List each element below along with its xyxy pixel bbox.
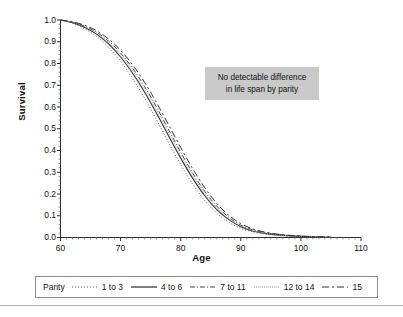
legend-label: 12 to 14 [284,282,315,292]
annotation-callout: No detectable difference in life span by… [205,67,319,100]
y-tick-label: 0.6 [30,102,56,112]
x-tick-label: 100 [286,243,316,253]
legend-entry-1-to-3[interactable]: 1 to 3 [72,282,123,292]
survival-chart-figure: Survival Age 0.00.10.20.30.40.50.60.70.8… [0,0,403,317]
y-tick-label: 0.8 [30,58,56,68]
footer-divider [0,305,403,306]
survival-curve-4-to-6 [61,20,331,237]
annotation-line-1: No detectable difference [218,72,307,83]
y-tick-label: 0.3 [30,167,56,177]
axis-lines [60,20,361,238]
survival-curve-15 [61,20,331,237]
y-tick-label: 0.0 [30,232,56,242]
survival-curve-1-to-3 [61,20,331,237]
legend-label: 1 to 3 [102,282,123,292]
x-tick-label: 60 [46,243,76,253]
y-tick-label: 0.1 [30,210,56,220]
legend-line-sample-icon [131,283,157,291]
y-axis-ticks [57,20,61,238]
survival-curve-12-to-14 [61,20,331,237]
y-tick-label: 0.9 [30,36,56,46]
legend-entry-4-to-6[interactable]: 4 to 6 [131,282,182,292]
legend-title: Parity [43,282,65,292]
x-tick-label: 110 [346,243,376,253]
annotation-line-2: in life span by parity [226,84,298,95]
legend-line-sample-icon [322,283,348,291]
chart-legend: Parity 1 to 34 to 67 to 1112 to 1415 [35,276,378,298]
y-tick-label: 0.7 [30,80,56,90]
legend-line-sample-icon [72,283,98,291]
legend-label: 4 to 6 [161,282,182,292]
legend-label: 7 to 11 [220,282,245,292]
y-tick-label: 0.4 [30,145,56,155]
legend-line-sample-icon [254,283,280,291]
x-tick-label: 80 [166,243,196,253]
legend-line-sample-icon [190,283,216,291]
legend-entry-list: 1 to 34 to 67 to 1112 to 1415 [72,282,370,292]
x-axis-title: Age [0,252,403,263]
y-tick-label: 1.0 [30,15,56,25]
legend-entry-12-to-14[interactable]: 12 to 14 [254,282,315,292]
survival-curve-7-to-11 [61,20,331,237]
x-tick-label: 70 [106,243,136,253]
y-axis-title: Survival [16,67,27,137]
x-tick-label: 90 [226,243,256,253]
survival-curves [61,20,331,237]
y-tick-label: 0.2 [30,189,56,199]
y-tick-label: 0.5 [30,123,56,133]
plot-canvas [0,0,403,317]
legend-entry-7-to-11[interactable]: 7 to 11 [190,282,245,292]
legend-entry-15[interactable]: 15 [322,282,361,292]
legend-label: 15 [352,282,361,292]
